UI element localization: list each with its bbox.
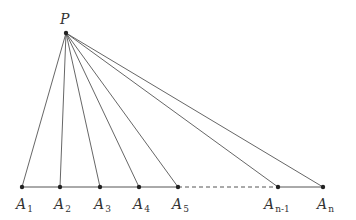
point-An <box>321 185 325 189</box>
label-A5: A5 <box>170 196 189 214</box>
label-P: P <box>59 11 70 27</box>
label-A4: A4 <box>131 196 150 214</box>
point-An-1 <box>276 185 280 189</box>
rays-group <box>22 33 323 187</box>
label-An-1: An-1 <box>262 196 290 214</box>
label-A1: A1 <box>14 196 33 214</box>
ray-P-A4 <box>66 33 139 187</box>
point-A1 <box>20 185 24 189</box>
label-A2: A2 <box>52 196 71 214</box>
point-A3 <box>98 185 102 189</box>
point-A2 <box>58 185 62 189</box>
point-P <box>64 31 68 35</box>
label-An: An <box>315 196 334 214</box>
labels-group: PA1A2A3A4A5An-1An <box>14 11 334 214</box>
diagram-canvas: PA1A2A3A4A5An-1An <box>0 0 356 220</box>
ray-P-A2 <box>60 33 66 187</box>
point-A5 <box>176 185 180 189</box>
ray-P-An-1 <box>66 33 278 187</box>
ray-P-An <box>66 33 323 187</box>
ray-P-A1 <box>22 33 66 187</box>
point-A4 <box>137 185 141 189</box>
label-A3: A3 <box>92 196 111 214</box>
